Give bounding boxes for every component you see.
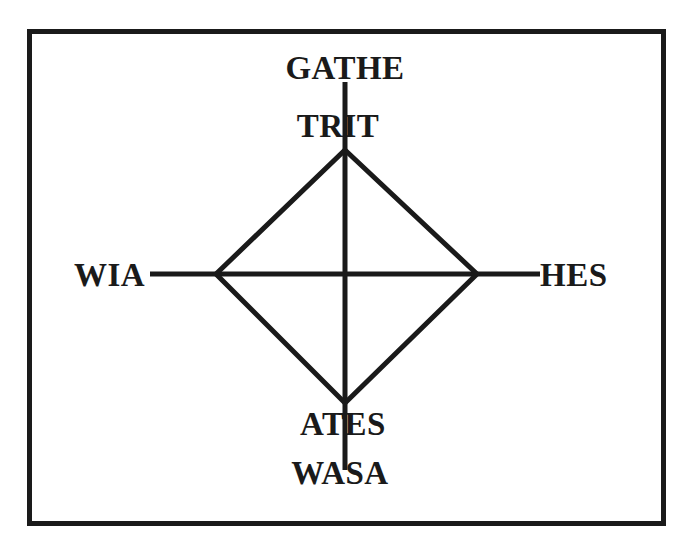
label-bottom-inner: ATES [300, 408, 386, 441]
label-top-outer: GATHE [285, 52, 404, 85]
label-bottom-outer: WASA [291, 457, 388, 490]
label-left: WIA [74, 259, 145, 292]
label-top-inner: TRIT [297, 110, 380, 143]
label-right: HES [540, 259, 608, 292]
